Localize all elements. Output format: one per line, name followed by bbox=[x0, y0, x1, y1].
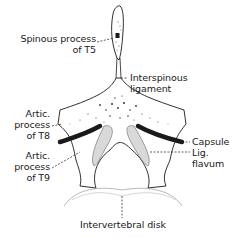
lamina-t8 bbox=[58, 78, 186, 188]
disk-line-2 bbox=[72, 193, 176, 200]
label-spinous-process-line1: Spinous process bbox=[14, 33, 96, 44]
label-artic-t9-line3: of T9 bbox=[0, 172, 50, 183]
label-artic-t9-line1: Artic. bbox=[0, 150, 50, 161]
label-artic-process-t8: Artic. process of T8 bbox=[0, 108, 50, 141]
label-lig-flavum-line1: Lig. bbox=[192, 147, 224, 158]
leader-spinous bbox=[97, 38, 114, 42]
label-intervertebral-disk-text: Intervertebral disk bbox=[80, 219, 166, 230]
label-artic-t8-line3: of T8 bbox=[0, 130, 50, 141]
label-artic-t8-line1: Artic. bbox=[0, 108, 50, 119]
spinous-process bbox=[112, 6, 124, 60]
label-spinous-process: Spinous process of T5 bbox=[14, 33, 96, 55]
label-interspinous-ligament: Interspinous ligament bbox=[130, 72, 188, 94]
label-artic-t9-line2: process bbox=[0, 161, 50, 172]
label-capsule-text: Capsule bbox=[192, 136, 229, 147]
label-capsule: Capsule bbox=[192, 136, 229, 147]
label-interspinous-line2: ligament bbox=[130, 83, 188, 94]
label-lig-flavum: Lig. flavum bbox=[192, 147, 224, 169]
label-intervertebral-disk: Intervertebral disk bbox=[80, 219, 166, 230]
label-spinous-process-line2: of T5 bbox=[14, 44, 96, 55]
spinous-dark-mark bbox=[116, 33, 120, 38]
label-interspinous-line1: Interspinous bbox=[130, 72, 188, 83]
label-artic-process-t9: Artic. process of T9 bbox=[0, 150, 50, 183]
interspinous-ligament bbox=[116, 58, 121, 78]
label-artic-t8-line2: process bbox=[0, 119, 50, 130]
intervertebral-disk bbox=[64, 188, 182, 206]
label-lig-flavum-line2: flavum bbox=[192, 158, 224, 169]
